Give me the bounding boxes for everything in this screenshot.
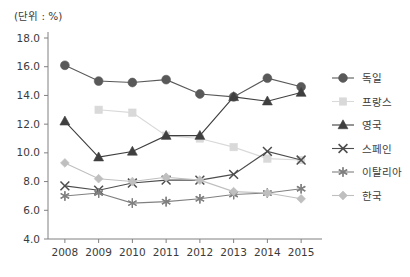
data-point-square: [339, 98, 346, 105]
data-point-x: [263, 147, 272, 156]
data-point-diamond: [263, 189, 272, 198]
data-point-square: [95, 106, 102, 113]
series-5: [60, 159, 305, 204]
x-tick-label: 2014: [254, 246, 281, 258]
data-point-triangle: [127, 146, 137, 155]
legend-item-4[interactable]: 이탈리아: [332, 166, 402, 178]
data-point-circle: [339, 74, 348, 83]
legend-label: 한국: [362, 190, 382, 202]
line-chart: 4.06.08.010.012.014.016.018.020082009201…: [0, 0, 410, 277]
y-tick-label: 18.0: [17, 32, 40, 44]
y-tick-label: 16.0: [17, 60, 40, 72]
data-point-circle: [94, 77, 103, 86]
x-tick-label: 2011: [153, 246, 180, 258]
data-point-diamond: [128, 177, 137, 186]
data-point-diamond: [339, 191, 348, 200]
legend-label: 스페인: [362, 143, 392, 155]
data-point-diamond: [60, 159, 69, 168]
legend-label: 영국: [362, 119, 382, 131]
data-point-diamond: [94, 174, 103, 183]
y-tick-label: 14.0: [17, 89, 40, 101]
data-point-circle: [60, 61, 69, 70]
legend-label: 독일: [362, 72, 382, 84]
data-point-diamond: [297, 194, 306, 203]
y-tick-label: 8.0: [23, 175, 40, 187]
legend-label: 프랑스: [362, 96, 392, 108]
x-tick-label: 2013: [220, 246, 247, 258]
data-point-square: [230, 143, 237, 150]
data-point-circle: [195, 90, 204, 99]
chart-container: 4.06.08.010.012.014.016.018.020082009201…: [0, 0, 410, 277]
data-point-triangle: [338, 120, 348, 129]
legend-label: 이탈리아: [362, 166, 402, 178]
legend-item-0[interactable]: 독일: [332, 72, 382, 84]
y-tick-label: 4.0: [23, 233, 40, 245]
y-tick-label: 12.0: [17, 118, 40, 130]
data-point-square: [129, 109, 136, 116]
legend-item-3[interactable]: 스페인: [332, 143, 392, 155]
data-point-circle: [263, 74, 272, 83]
y-tick-label: 6.0: [23, 204, 40, 216]
legend-item-2[interactable]: 영국: [332, 119, 382, 131]
x-tick-label: 2010: [119, 246, 146, 258]
x-tick-label: 2009: [85, 246, 112, 258]
data-point-circle: [128, 78, 137, 87]
y-tick-label: 10.0: [17, 146, 40, 158]
legend-item-1[interactable]: 프랑스: [332, 96, 392, 108]
series-0: [60, 61, 305, 101]
x-tick-label: 2012: [187, 246, 214, 258]
legend-item-5[interactable]: 한국: [332, 190, 382, 202]
data-point-circle: [162, 75, 171, 84]
x-tick-label: 2008: [52, 246, 79, 258]
data-point-triangle: [60, 116, 70, 125]
data-point-square: [264, 155, 271, 162]
x-tick-label: 2015: [288, 246, 315, 258]
